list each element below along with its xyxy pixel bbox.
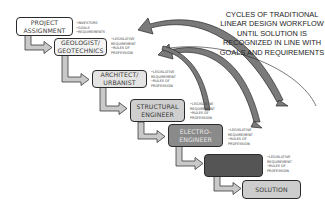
note-item: PROFESSION (190, 116, 215, 121)
elbow-arrow-6 (214, 176, 241, 195)
note-item: •LEGISLATIVE (190, 102, 215, 107)
step-structural-engineer: STRUCTURAL ENGINEER (130, 99, 185, 122)
note-item: •LEGISLATIVE (228, 128, 253, 133)
step-project-assignment: PROJECT ASSIGNMENT (16, 17, 73, 36)
step-notes-electro: •LEGISLATIVE REQUIREMENT •RULES OF PROFE… (228, 128, 253, 146)
elbow-arrow-1 (25, 35, 52, 54)
note-item: •LEGISLATIVE (111, 37, 136, 42)
step-architect-urbanist: ARCHITECT/ URBANIST (92, 70, 147, 88)
step-notes-project-assignment: •INVESTORS •GOALS •REQUIREMENTS (76, 21, 105, 35)
step-label-line1: ELECTRO- (179, 128, 212, 136)
step-notes-structural: •LEGISLATIVE REQUIREMENT •RULES OF PROFE… (190, 102, 215, 120)
elbow-arrow-2 (62, 55, 89, 86)
step-electro-engineer: ELECTRO- ENGINEER (168, 124, 223, 147)
note-item: PROFESSION (267, 169, 292, 174)
note-item: •LEGISLATIVE (151, 70, 176, 75)
diagram-caption: CYCLES OF TRADITIONAL LINEAR DESIGN WORK… (218, 10, 325, 57)
step-label-line1: PROJECT (24, 19, 66, 27)
step-label-line1: SOLUTION (255, 186, 287, 194)
elbow-arrow-3 (100, 87, 127, 115)
step-notes-geologist: •LEGISLATIVE REQUIREMENT •RULES OF PROFE… (111, 37, 136, 55)
note-item: •LEGISLATIVE (267, 155, 292, 160)
step-unlabeled (204, 154, 263, 177)
step-label-line1: GEOLOGIST/ (57, 39, 103, 47)
step-solution: SOLUTION (242, 180, 301, 199)
step-label-line2: ASSIGNMENT (24, 27, 66, 35)
note-item: PROFESSION (151, 84, 176, 89)
note-item: PROFESSION (228, 142, 253, 147)
step-label-line2: ENGINEER (137, 111, 179, 119)
note-item: •REQUIREMENTS (76, 30, 105, 35)
step-label-line2: GEOTECHNICS (57, 47, 103, 55)
step-geologist-geotechnics: GEOLOGIST/ GEOTECHNICS (54, 38, 107, 56)
elbow-arrow-5 (176, 146, 203, 170)
note-item: PROFESSION (111, 51, 136, 56)
step-notes-unlabeled: •LEGISLATIVE REQUIREMENT •RULES OF PROFE… (267, 155, 292, 173)
step-label-line1: ARCHITECT/ (101, 71, 139, 79)
step-notes-architect: •LEGISLATIVE REQUIREMENT •RULES OF PROFE… (151, 70, 176, 88)
step-label-line2: URBANIST (101, 79, 139, 87)
step-label-line2: ENGINEER (179, 136, 212, 144)
elbow-arrow-4 (138, 122, 165, 143)
step-label-line1: STRUCTURAL (137, 103, 179, 111)
